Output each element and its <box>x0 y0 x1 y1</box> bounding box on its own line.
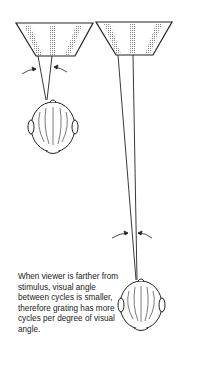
right-sight-lines <box>118 55 137 280</box>
figure-caption: When viewer is farther from stimulus, vi… <box>18 272 128 336</box>
left-sight-lines <box>38 56 52 100</box>
left-angle-arrows <box>22 65 67 74</box>
left-viewer-head <box>28 100 78 154</box>
right-grating <box>96 22 172 55</box>
left-grating <box>16 23 93 56</box>
